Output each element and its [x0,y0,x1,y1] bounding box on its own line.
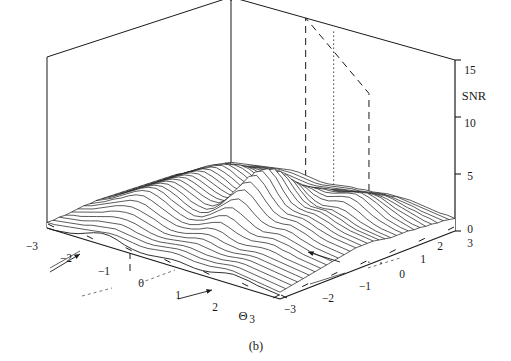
theta-tick-label-4: 1 [175,289,181,301]
theta-tick-label-0: −3 [26,240,38,252]
right-axis-tick-label-3: 0 [399,268,405,280]
z-tick-label-3: 15 [464,64,476,76]
box-edge-top-back-right [231,0,455,60]
right-axis-tick-label-6: 3 [467,237,473,249]
right-axis-tick-label-5: 2 [437,240,443,252]
annotation-arrow-left-head [74,254,80,259]
figure-caption: (b) [249,339,264,353]
z-axis-title-label: SNR [462,89,487,103]
theta-tick-label-2: −1 [98,265,110,277]
right-axis-tick-label-0: −3 [284,303,296,315]
z-tick-label-0: 0 [467,223,473,235]
z-tick-label-1: 5 [467,170,473,182]
waterfall-surface [47,162,455,299]
right-axis-tick-label-2: −1 [359,280,371,292]
waterfall-3d-plot: −3−2−10123−3−2−10123051015SNRΘ(b) [0,0,511,361]
right-axis-tick-label-1: −2 [322,292,334,304]
annotation-arrow-theta-head [206,289,212,294]
box-edge-top-back-left [47,0,231,57]
annotation-dash-mid [140,270,175,283]
theta-axis-title-label: Θ [238,309,247,323]
theta-tick-label-5: 2 [212,301,218,313]
right-axis-tick-label-4: 1 [420,253,426,265]
figure-panel: −3−2−10123−3−2−10123051015SNRΘ(b) SNR Θ … [0,0,511,361]
theta-tick-label-1: −2 [60,252,72,264]
theta-tick-label-6: 3 [249,313,255,325]
theta-tick-label-3: 0 [138,277,144,289]
z-tick-label-2: 10 [464,117,476,129]
annotation-dash-left [82,288,112,296]
